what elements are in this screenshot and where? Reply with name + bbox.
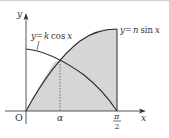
- pi-denominator: 2: [115, 122, 120, 131]
- shaded-region: [26, 29, 117, 111]
- x-axis-label: x: [141, 113, 146, 123]
- cosine-curve-label: y=kcosx: [30, 31, 72, 41]
- cosine-label-leader: [37, 41, 39, 50]
- origin-label: O: [15, 112, 23, 123]
- y-axis-label: y: [16, 9, 23, 19]
- alpha-tick-label: α: [57, 113, 63, 123]
- area-between-curves-diagram: y y=kcosx y=nsinx O α π 2 x: [0, 0, 169, 138]
- sine-curve-label: y=nsinx: [119, 25, 160, 35]
- pi-numerator: π: [113, 112, 120, 121]
